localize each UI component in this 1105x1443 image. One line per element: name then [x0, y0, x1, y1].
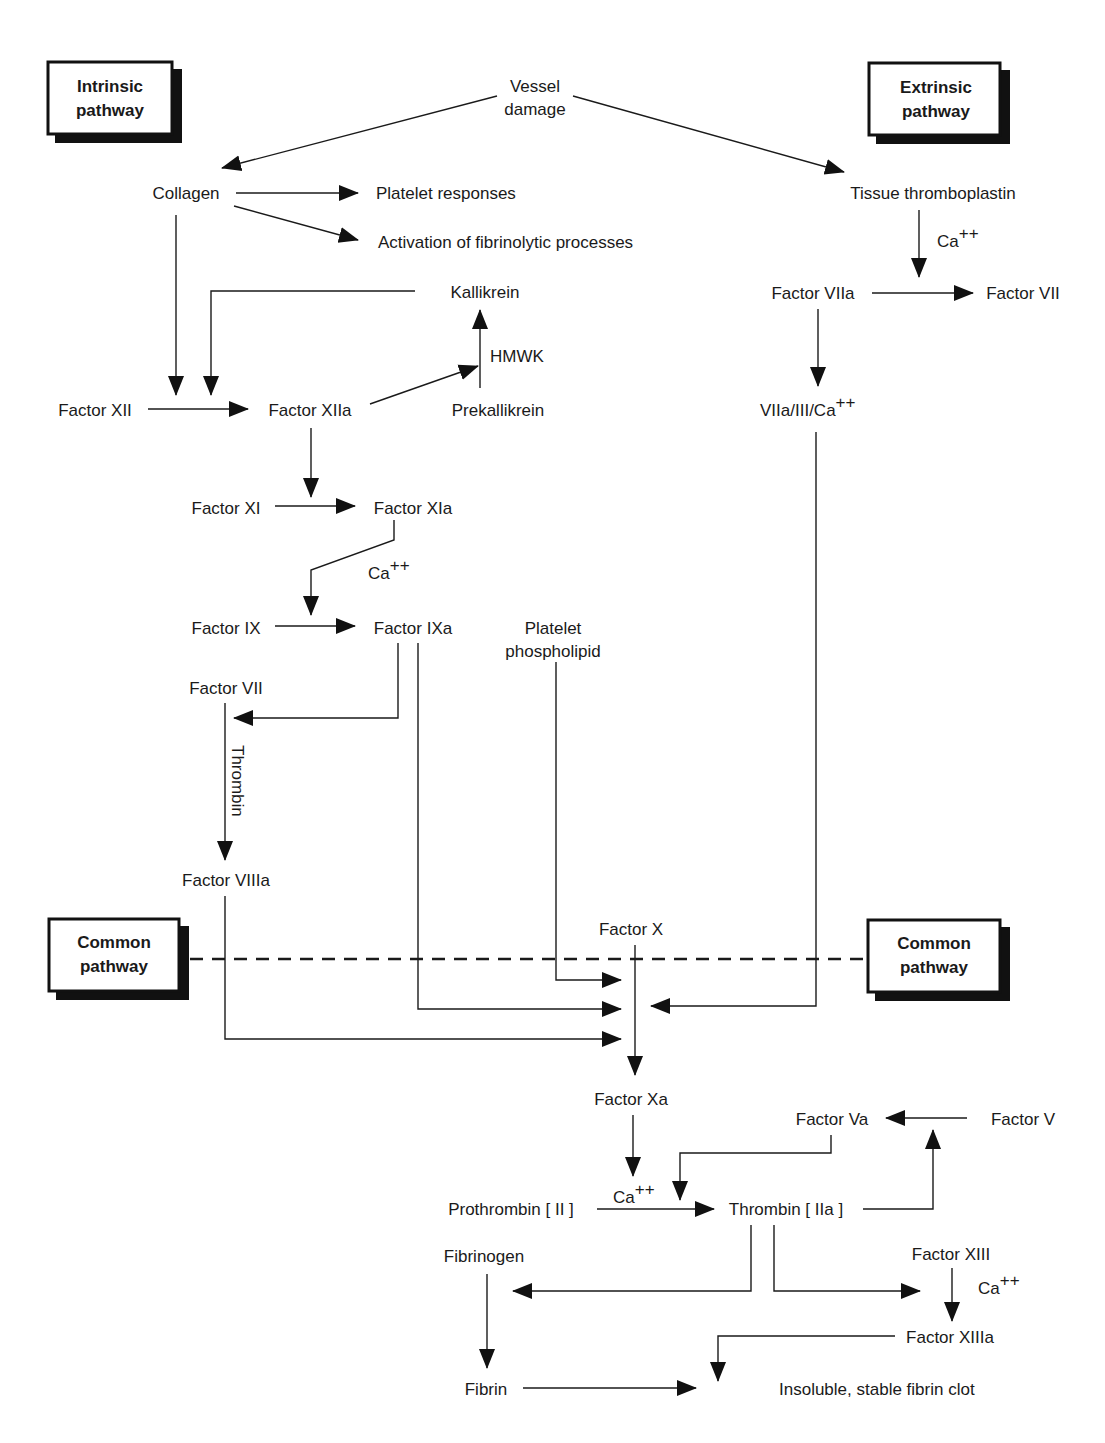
tissue-thromboplastin-label: Tissue thromboplastin [850, 184, 1016, 203]
common-right-line1: Common [897, 934, 971, 953]
arrow-vessel-to-thromboplastin [573, 96, 844, 172]
ca-xia-sup: ++ [390, 556, 410, 575]
common-left-line2: pathway [80, 957, 149, 976]
factor-va-label: Factor Va [796, 1110, 869, 1129]
factor-vii-intrinsic-label: Factor VII [189, 679, 263, 698]
fibrinogen-label: Fibrinogen [444, 1247, 524, 1266]
factor-ix-label: Factor IX [192, 619, 261, 638]
extrinsic-pathway-box: Extrinsic pathway [869, 63, 1010, 144]
thrombin-rotated-label: Thrombin [228, 745, 247, 817]
extrinsic-box-line2: pathway [902, 102, 971, 121]
hmwk-label: HMWK [490, 347, 544, 366]
arrow-collagen-to-fibrinolytic [234, 206, 358, 240]
factor-x-label: Factor X [599, 920, 663, 939]
viia-iii-ca-text: VIIa/III/Ca [760, 401, 836, 420]
ca-xiii-sup: ++ [1000, 1271, 1020, 1290]
factor-xiiia-label: Factor XIIIa [906, 1328, 994, 1347]
platelet-responses-label: Platelet responses [376, 184, 516, 203]
intrinsic-box-line1: Intrinsic [77, 77, 143, 96]
ca-xia-text: Ca [368, 564, 390, 583]
viia-iii-ca-sup: ++ [836, 393, 856, 412]
ca-extrinsic-sup: ++ [959, 224, 979, 243]
vessel-damage-line2: damage [504, 100, 565, 119]
ca-prothrombin-text: Ca [613, 1188, 635, 1207]
viia-iii-ca-label: VIIa/III/Ca++ [760, 393, 856, 420]
arrow-xiiia-to-clot [718, 1336, 895, 1381]
collagen-label: Collagen [152, 184, 219, 203]
ca-prothrombin-sup: ++ [635, 1180, 655, 1199]
prekallikrein-label: Prekallikrein [452, 401, 545, 420]
platelet-phospholipid-line1: Platelet [525, 619, 582, 638]
factor-vii-extrinsic-label: Factor VII [986, 284, 1060, 303]
arrow-thrombin-to-xiii [774, 1225, 920, 1291]
arrow-complex-to-x [651, 432, 816, 1006]
factor-xii-label: Factor XII [58, 401, 132, 420]
factor-xiii-label: Factor XIII [912, 1245, 990, 1264]
extrinsic-box-line1: Extrinsic [900, 78, 972, 97]
ca-xia-label: Ca++ [368, 556, 410, 583]
ca-xiii-text: Ca [978, 1279, 1000, 1298]
ca-extrinsic-text: Ca [937, 232, 959, 251]
fibrin-label: Fibrin [465, 1380, 508, 1399]
intrinsic-pathway-box: Intrinsic pathway [48, 62, 182, 143]
ca-extrinsic-label: Ca++ [937, 224, 979, 251]
factor-xia-label: Factor XIa [374, 499, 453, 518]
arrow-va-to-thrombin [680, 1135, 831, 1200]
common-pathway-box-left: Common pathway [49, 919, 189, 1000]
arrow-thrombin-to-fibrinogen [513, 1225, 751, 1291]
ca-prothrombin-label: Ca++ [613, 1180, 655, 1207]
arrow-vessel-to-collagen [222, 96, 497, 168]
vessel-damage-line1: Vessel [510, 77, 560, 96]
prothrombin-label: Prothrombin [ II ] [448, 1200, 574, 1219]
arrow-kallikrein-feedback [211, 291, 415, 395]
factor-xiia-label: Factor XIIa [268, 401, 352, 420]
platelet-phospholipid-line2: phospholipid [505, 642, 600, 661]
factor-viiia-label: Factor VIIIa [182, 871, 270, 890]
arrow-thrombin-to-v [863, 1130, 933, 1209]
common-right-line2: pathway [900, 958, 969, 977]
clot-label: Insoluble, stable fibrin clot [779, 1380, 975, 1399]
factor-xi-label: Factor XI [192, 499, 261, 518]
factor-v-label: Factor V [991, 1110, 1056, 1129]
arrow-viiia-to-x [225, 896, 621, 1039]
factor-viia-label: Factor VIIa [771, 284, 855, 303]
ca-xiii-label: Ca++ [978, 1271, 1020, 1298]
fibrinolytic-label: Activation of fibrinolytic processes [378, 233, 633, 252]
kallikrein-label: Kallikrein [451, 283, 520, 302]
common-left-line1: Common [77, 933, 151, 952]
factor-xa-label: Factor Xa [594, 1090, 668, 1109]
arrow-xiia-to-hmwk [370, 366, 478, 404]
arrow-ixa-to-x [418, 643, 621, 1009]
factor-ixa-label: Factor IXa [374, 619, 453, 638]
thrombin-label: Thrombin [ IIa ] [729, 1200, 843, 1219]
common-pathway-box-right: Common pathway [868, 920, 1010, 1001]
intrinsic-box-line2: pathway [76, 101, 145, 120]
coagulation-cascade-diagram: Intrinsic pathway Extrinsic pathway Comm… [0, 0, 1105, 1443]
